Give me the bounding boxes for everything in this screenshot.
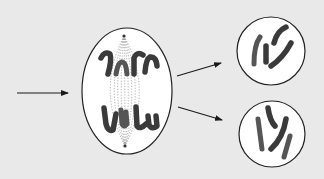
spindle-pole-bottom	[123, 144, 126, 147]
daughter-cell-top-membrane	[237, 17, 305, 85]
daughter-cell-bottom	[239, 101, 305, 167]
parent-cell	[82, 28, 172, 154]
spindle-pole-top	[122, 34, 125, 37]
daughter-cell-top	[237, 17, 305, 85]
daughter-cell-bottom-membrane	[239, 101, 305, 167]
output-arrow-top	[177, 63, 221, 76]
output-arrow-bottom	[178, 107, 222, 120]
cell-division-diagram	[0, 0, 324, 179]
